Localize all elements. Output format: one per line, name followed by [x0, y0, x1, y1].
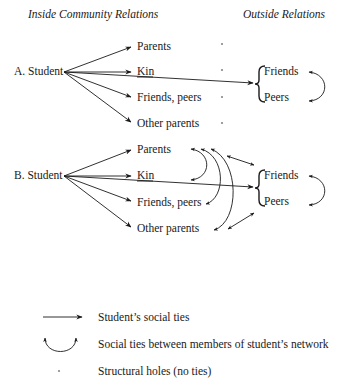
node-outside-peers: Peers	[264, 195, 289, 207]
legend-curved-arrow-icon	[45, 338, 76, 352]
outside-relations-header: Outside Relations	[243, 8, 326, 20]
legend: Student’s social ties Social ties betwee…	[43, 311, 329, 378]
panel-a: A. Student Parents Kin Friends, peers Ot…	[14, 40, 325, 130]
panel-b: B. Student Parents Kin Friends, peers Ot…	[14, 143, 325, 235]
tie-parents-other-parents-icon	[211, 149, 233, 230]
node-outside-friends: Friends	[264, 65, 299, 77]
curved-double-arrow-icon	[309, 72, 325, 101]
tie-other-parents-peers-outside-icon	[228, 213, 254, 229]
tie-arrow-other-parents	[64, 176, 131, 227]
tie-arrow-parents	[64, 47, 131, 72]
tie-arrow-outside	[64, 176, 253, 187]
tie-parents-kin-icon	[191, 149, 207, 180]
tie-parents-friends-outside-icon	[227, 156, 254, 165]
tie-arrow-outside	[64, 72, 253, 83]
node-kin: Kin	[137, 65, 155, 77]
legend-label-student-ties: Student’s social ties	[98, 311, 190, 323]
curved-double-arrow-icon	[309, 176, 325, 205]
tie-parents-friends-icon	[201, 149, 220, 204]
node-other-parents: Other parents	[137, 222, 200, 235]
legend-label-network-ties: Social ties between members of student’s…	[98, 338, 329, 350]
node-parents: Parents	[137, 143, 171, 155]
structural-hole-icon	[221, 122, 223, 124]
tie-arrow-other-parents	[64, 72, 131, 122]
node-kin: Kin	[137, 169, 155, 181]
node-other-parents: Other parents	[137, 117, 200, 130]
node-outside-peers: Peers	[264, 91, 289, 103]
panel-b-student-label: B. Student	[14, 169, 63, 181]
structural-hole-icon	[221, 96, 223, 98]
node-friends-peers: Friends, peers	[137, 91, 202, 104]
node-parents: Parents	[137, 40, 171, 52]
structural-holes	[221, 43, 223, 124]
structural-hole-icon	[221, 43, 223, 45]
legend-structural-hole-icon	[58, 370, 60, 372]
panel-a-student-label: A. Student	[14, 65, 64, 77]
legend-label-structural-holes: Structural holes (no ties)	[98, 365, 212, 378]
tie-arrow-parents	[64, 150, 131, 176]
inside-relations-header: Inside Community Relations	[27, 8, 159, 21]
structural-hole-icon	[221, 69, 223, 71]
network-diagram: Inside Community Relations Outside Relat…	[0, 0, 340, 390]
node-outside-friends: Friends	[264, 169, 299, 181]
node-friends-peers: Friends, peers	[137, 196, 202, 209]
